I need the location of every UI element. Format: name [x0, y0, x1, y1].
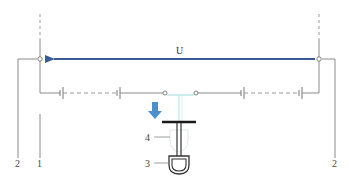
- right-node: [317, 57, 321, 61]
- left-node: [38, 57, 42, 61]
- rod: [177, 123, 181, 156]
- right-cell-series: [198, 87, 319, 99]
- bridge-wire: [167, 95, 194, 121]
- label-right-outer: 2: [332, 158, 337, 169]
- label-handle: 3: [145, 158, 150, 169]
- down-arrow-icon: [148, 102, 162, 119]
- label-left-inner: 1: [37, 158, 42, 169]
- center-right-contact: [194, 91, 198, 95]
- voltage-label: U: [176, 45, 184, 56]
- right-outer-conductor: [322, 59, 335, 158]
- label-rod: 4: [145, 132, 150, 143]
- handle: [169, 156, 189, 174]
- circuit-diagram: U: [0, 0, 349, 182]
- center-left-contact: [163, 91, 167, 95]
- left-outer-conductor: [18, 59, 37, 158]
- ghost-handle: [170, 130, 188, 152]
- left-cell-series: [40, 87, 163, 99]
- label-left-outer: 2: [15, 158, 20, 169]
